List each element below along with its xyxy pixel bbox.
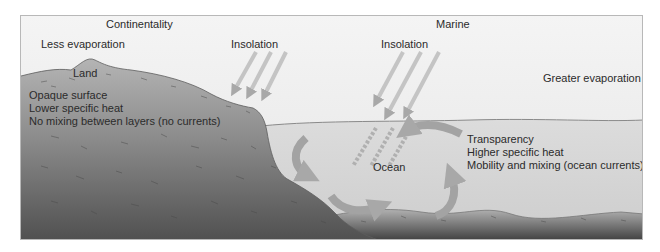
ocean-property: Transparency <box>467 133 643 146</box>
heading-marine: Marine <box>436 18 470 31</box>
diagram-frame: Continentality Marine Less evaporation I… <box>20 15 643 240</box>
ocean-properties: Transparency Higher specific heat Mobili… <box>467 133 643 172</box>
land-property: Lower specific heat <box>29 102 220 115</box>
ocean-evaporation-label: Greater evaporation <box>543 72 641 85</box>
heading-continentality: Continentality <box>106 18 173 31</box>
land-properties: Opaque surface Lower specific heat No mi… <box>29 89 220 128</box>
insolation-land-label: Insolation <box>231 38 278 51</box>
land-property: Opaque surface <box>29 89 220 102</box>
ocean-label: Ocean <box>373 161 405 174</box>
land-label: Land <box>73 67 97 80</box>
ocean-property: Higher specific heat <box>467 146 643 159</box>
ocean-property: Mobility and mixing (ocean currents) <box>467 159 643 172</box>
land-property: No mixing between layers (no currents) <box>29 115 220 128</box>
land-evaporation-label: Less evaporation <box>41 38 125 51</box>
insolation-ocean-label: Insolation <box>381 38 428 51</box>
